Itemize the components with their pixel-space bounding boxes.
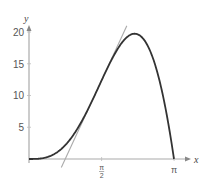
x-tick-label-pi: π (171, 165, 177, 175)
x-tick-label-pi-half: π 2 (99, 164, 104, 179)
axes: x y 5 10 15 20 π 2 π (13, 13, 199, 179)
pi-half-denominator: 2 (100, 172, 104, 179)
y-tick-label-5: 5 (18, 122, 24, 133)
pi-half-numerator: π (99, 164, 104, 171)
x-axis-arrow-icon (185, 157, 191, 162)
y-tick-label-15: 15 (13, 59, 25, 70)
y-tick-label-10: 10 (13, 90, 25, 101)
y-tick-label-20: 20 (13, 27, 25, 38)
x-axis-label: x (193, 154, 199, 165)
chart: x y 5 10 15 20 π 2 π (0, 0, 207, 189)
y-axis-arrow-icon (27, 25, 32, 31)
y-axis-label: y (23, 13, 29, 24)
function-curve (29, 34, 174, 159)
